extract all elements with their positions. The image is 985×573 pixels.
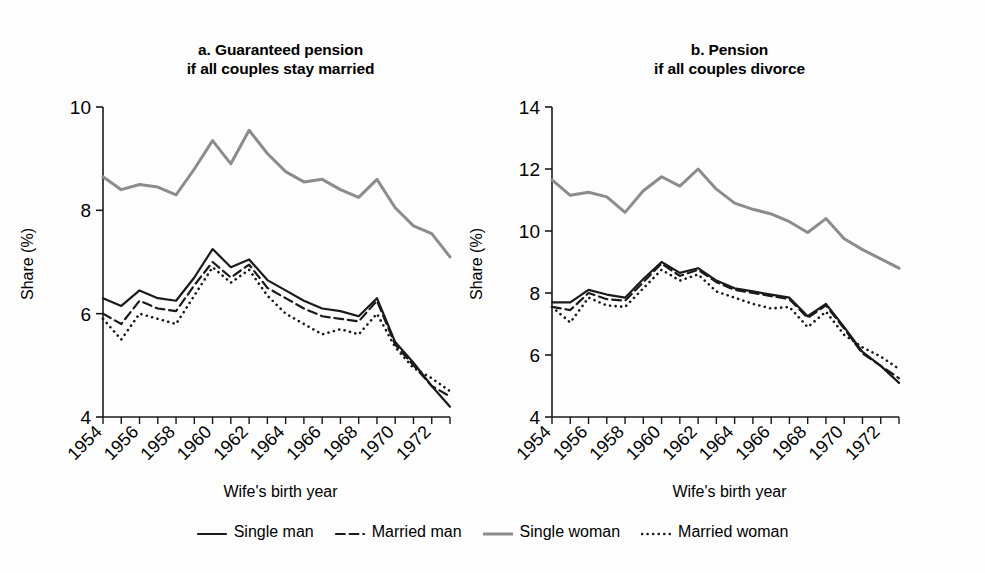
svg-text:1960: 1960 — [622, 422, 664, 464]
panel-b-plot: 4681012141954195619581960196219641966196… — [0, 0, 985, 573]
svg-text:1958: 1958 — [585, 422, 627, 464]
legend-label: Married man — [372, 524, 462, 540]
svg-text:12: 12 — [519, 159, 540, 180]
series-married-man — [552, 264, 899, 379]
svg-text:14: 14 — [519, 97, 541, 118]
svg-text:1966: 1966 — [732, 422, 774, 464]
legend-swatch-dashed-line-icon — [335, 526, 365, 538]
chart-legend: Single manMarried manSingle womanMarried… — [0, 524, 985, 540]
legend-label: Single man — [234, 524, 314, 540]
svg-text:1954: 1954 — [512, 422, 554, 464]
svg-text:1964: 1964 — [695, 422, 737, 464]
svg-text:8: 8 — [529, 283, 540, 304]
legend-swatch-dotted-line-icon — [641, 526, 671, 538]
legend-item-married-man[interactable]: Married man — [335, 524, 462, 540]
svg-text:1962: 1962 — [658, 422, 700, 464]
svg-text:6: 6 — [529, 345, 540, 366]
svg-text:1968: 1968 — [768, 422, 810, 464]
svg-text:1970: 1970 — [805, 422, 847, 464]
legend-swatch-solid-line-icon — [483, 526, 513, 538]
figure-canvas: a. Guaranteed pension if all couples sta… — [0, 0, 985, 573]
svg-text:10: 10 — [519, 221, 540, 242]
series-single-man — [552, 262, 899, 383]
series-single-woman — [552, 169, 899, 268]
legend-item-married-woman[interactable]: Married woman — [641, 524, 788, 540]
legend-label: Single woman — [520, 524, 621, 540]
legend-label: Married woman — [678, 524, 788, 540]
legend-swatch-solid-line-icon — [197, 526, 227, 538]
svg-text:1956: 1956 — [549, 422, 591, 464]
legend-item-single-woman[interactable]: Single woman — [483, 524, 621, 540]
legend-item-single-man[interactable]: Single man — [197, 524, 314, 540]
svg-text:1972: 1972 — [841, 422, 883, 464]
